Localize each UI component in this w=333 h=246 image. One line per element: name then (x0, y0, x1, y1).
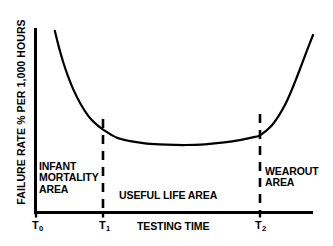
plot-area (0, 0, 333, 246)
x-axis-label: TESTING TIME (137, 221, 209, 232)
y-axis-label: FAILURE RATE % PER 1,000 HOURS (15, 17, 31, 207)
x-tick-label-t1: T1 (99, 219, 110, 231)
region-label-wearout: WEAROUT AREA (265, 166, 319, 189)
x-tick-label-t2-base: T (255, 219, 262, 231)
region-label-infant-mortality-line-3: AREA (39, 184, 99, 195)
x-tick-label-t2-sub: 2 (262, 224, 266, 233)
x-tick-label-t1-base: T (99, 219, 106, 231)
x-tick-label-t2: T2 (255, 219, 266, 231)
region-label-wearout-line-2: AREA (265, 177, 319, 188)
region-label-infant-mortality-line-2: MORTALITY (39, 172, 99, 183)
x-tick-label-t1-sub: 1 (106, 224, 110, 233)
bathtub-curve-line (55, 31, 313, 145)
region-label-infant-mortality: INFANT MORTALITY AREA (39, 161, 99, 195)
x-tick-label-t0: T0 (32, 219, 43, 231)
y-axis-label-text: FAILURE RATE % PER 1,000 HOURS (15, 17, 27, 207)
bathtub-curve-figure: FAILURE RATE % PER 1,000 HOURS INFANT MO… (0, 0, 333, 246)
region-label-useful-life: USEFUL LIFE AREA (119, 190, 217, 201)
x-tick-label-t0-base: T (32, 219, 39, 231)
x-tick-label-t0-sub: 0 (39, 224, 43, 233)
